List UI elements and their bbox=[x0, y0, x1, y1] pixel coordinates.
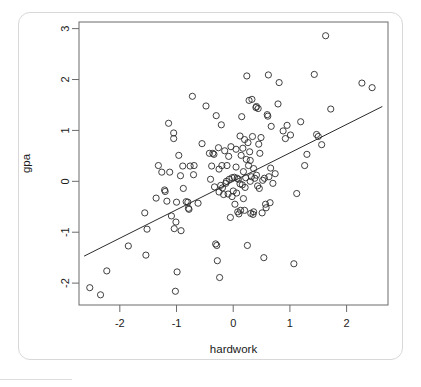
data-point bbox=[159, 169, 165, 175]
data-point bbox=[272, 171, 278, 177]
data-point bbox=[207, 176, 213, 182]
data-point bbox=[213, 113, 219, 119]
data-point bbox=[164, 198, 170, 204]
data-point bbox=[291, 261, 297, 267]
data-point bbox=[287, 132, 293, 138]
data-point bbox=[369, 85, 375, 91]
data-point bbox=[247, 149, 253, 155]
y-tick-label: 3 bbox=[59, 26, 71, 32]
data-point bbox=[226, 153, 232, 159]
data-point bbox=[180, 163, 186, 169]
data-point bbox=[177, 173, 183, 179]
data-point bbox=[311, 71, 317, 77]
y-axis-ticks bbox=[72, 29, 79, 283]
y-axis-label: gpa bbox=[20, 153, 32, 173]
y-tick-labels: -2-10123 bbox=[59, 26, 71, 288]
data-point bbox=[97, 292, 103, 298]
data-point bbox=[222, 148, 228, 154]
data-point bbox=[313, 131, 319, 137]
data-point bbox=[323, 33, 329, 39]
data-point bbox=[232, 201, 238, 207]
data-point bbox=[171, 226, 177, 232]
data-point bbox=[144, 226, 150, 232]
data-point bbox=[104, 268, 110, 274]
data-point bbox=[359, 80, 365, 86]
scatter-plot: -2-1012 -2-10123 hardwork gpa bbox=[0, 0, 421, 387]
data-point bbox=[240, 196, 246, 202]
data-point bbox=[243, 156, 249, 162]
data-point bbox=[167, 169, 173, 175]
y-tick-label: -2 bbox=[59, 278, 71, 288]
data-point bbox=[195, 200, 201, 206]
x-tick-label: -2 bbox=[115, 317, 125, 329]
data-point bbox=[244, 242, 250, 248]
data-point bbox=[178, 228, 184, 234]
data-point bbox=[328, 106, 334, 112]
data-point bbox=[217, 274, 223, 280]
data-point bbox=[174, 269, 180, 275]
data-point bbox=[294, 190, 300, 196]
data-point bbox=[240, 169, 246, 175]
data-point bbox=[218, 122, 224, 128]
data-point bbox=[270, 180, 276, 186]
data-point bbox=[172, 288, 178, 294]
plot-frame bbox=[79, 22, 388, 305]
data-point bbox=[87, 285, 93, 291]
data-point bbox=[275, 101, 281, 107]
data-point bbox=[284, 122, 290, 128]
data-point bbox=[233, 146, 239, 152]
data-point bbox=[268, 123, 274, 129]
data-point bbox=[214, 258, 220, 264]
data-point bbox=[258, 134, 264, 140]
data-point bbox=[165, 120, 171, 126]
plot-svg: -2-1012 -2-10123 hardwork gpa bbox=[0, 0, 421, 387]
x-axis-label: hardwork bbox=[210, 343, 258, 355]
data-point bbox=[239, 114, 245, 120]
x-tick-label: 2 bbox=[344, 317, 350, 329]
data-point bbox=[180, 185, 186, 191]
data-point bbox=[190, 172, 196, 178]
data-point bbox=[143, 252, 149, 258]
x-tick-label: 1 bbox=[287, 317, 293, 329]
data-point bbox=[209, 163, 215, 169]
x-tick-labels: -2-1012 bbox=[115, 317, 350, 329]
data-point bbox=[189, 93, 195, 99]
data-point bbox=[319, 142, 325, 148]
x-axis-ticks bbox=[120, 305, 347, 312]
data-point bbox=[298, 119, 304, 125]
data-point bbox=[214, 242, 220, 248]
data-point bbox=[155, 162, 161, 168]
data-point bbox=[142, 210, 148, 216]
data-point bbox=[304, 151, 310, 157]
data-point bbox=[256, 141, 262, 147]
data-point bbox=[249, 133, 255, 139]
data-point bbox=[153, 195, 159, 201]
x-tick-label: -1 bbox=[172, 317, 182, 329]
y-tick-label: -1 bbox=[59, 227, 71, 237]
data-point bbox=[233, 164, 239, 170]
data-point bbox=[191, 162, 197, 168]
data-point bbox=[173, 199, 179, 205]
y-tick-label: 0 bbox=[59, 178, 71, 184]
data-point bbox=[241, 207, 247, 213]
data-point bbox=[125, 243, 131, 249]
data-point bbox=[268, 165, 274, 171]
data-point bbox=[176, 152, 182, 158]
data-point bbox=[236, 211, 242, 217]
y-tick-label: 1 bbox=[59, 127, 71, 133]
data-point bbox=[173, 219, 179, 225]
y-tick-label: 2 bbox=[59, 76, 71, 82]
data-point bbox=[227, 214, 233, 220]
data-point bbox=[276, 79, 282, 85]
data-point bbox=[302, 162, 308, 168]
data-point bbox=[257, 150, 263, 156]
data-point bbox=[215, 145, 221, 151]
data-point bbox=[265, 72, 271, 78]
data-point bbox=[244, 73, 250, 79]
regression-line bbox=[84, 106, 382, 256]
data-points bbox=[87, 33, 376, 298]
data-point bbox=[280, 128, 286, 134]
x-tick-label: 0 bbox=[230, 317, 236, 329]
data-point bbox=[199, 141, 205, 147]
data-point bbox=[203, 103, 209, 109]
